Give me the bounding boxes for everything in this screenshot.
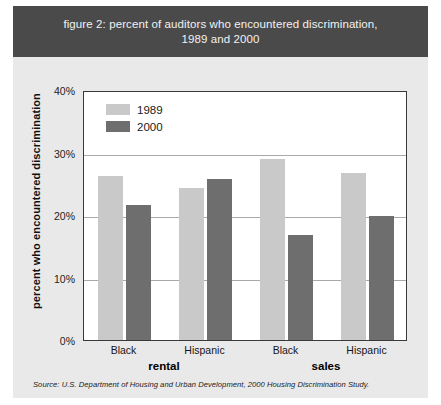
bar-1989-hispanic-3 <box>341 173 366 341</box>
group-labels: rentalsales <box>83 360 407 378</box>
y-axis-title: percent who encountered discrimination <box>27 86 45 316</box>
category-label-hispanic-3: Hispanic <box>346 344 386 356</box>
legend-label-1989: 1989 <box>137 104 163 116</box>
legend-swatch-2000 <box>106 121 130 132</box>
category-label-black-2: Black <box>273 344 299 356</box>
group-label-rental: rental <box>148 360 179 372</box>
plot-area: 19892000 <box>83 91 407 341</box>
legend-item-1989[interactable]: 1989 <box>106 102 163 117</box>
figure-title-line2: 1989 and 2000 <box>181 33 259 45</box>
y-axis-title-label: percent who encountered discrimination <box>30 93 42 309</box>
category-label-hispanic-1: Hispanic <box>184 344 224 356</box>
category-labels: BlackHispanicBlackHispanic <box>83 344 407 360</box>
bar-2000-hispanic-3 <box>369 216 394 340</box>
bar-2000-hispanic-1 <box>207 179 232 340</box>
bar-1989-black-0 <box>98 176 123 340</box>
figure-title-line1: figure 2: percent of auditors who encoun… <box>63 18 377 30</box>
legend-label-2000: 2000 <box>137 121 163 133</box>
y-tick-label: 40% <box>54 85 75 97</box>
chart-legend: 19892000 <box>106 102 163 136</box>
y-axis-tick-labels: 0%10%20%30%40% <box>45 91 79 341</box>
group-label-sales: sales <box>312 360 341 372</box>
figure-title-band: figure 2: percent of auditors who encoun… <box>13 6 428 57</box>
bar-1989-hispanic-1 <box>179 188 204 340</box>
y-tick-label: 10% <box>54 273 75 285</box>
y-tick-label: 30% <box>54 148 75 160</box>
source-note: Source: U.S. Department of Housing and U… <box>33 380 413 389</box>
bar-2000-black-2 <box>288 235 313 340</box>
legend-swatch-1989 <box>106 104 130 115</box>
figure-container: figure 2: percent of auditors who encoun… <box>13 6 428 398</box>
category-label-black-0: Black <box>111 344 137 356</box>
legend-item-2000[interactable]: 2000 <box>106 119 163 134</box>
figure-title: figure 2: percent of auditors who encoun… <box>63 17 377 47</box>
bar-2000-black-0 <box>126 205 151 340</box>
y-tick-label: 20% <box>54 210 75 222</box>
bar-1989-black-2 <box>260 159 285 340</box>
y-tick-label: 0% <box>60 335 75 347</box>
